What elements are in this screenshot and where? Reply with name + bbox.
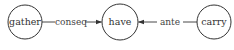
node-gather[interactable]: gather bbox=[8, 5, 42, 39]
diagram-canvas: gather have carry conseq ante bbox=[0, 0, 234, 50]
node-label: gather bbox=[9, 16, 41, 27]
node-have[interactable]: have bbox=[102, 4, 138, 40]
edge-carry-have: ante bbox=[139, 17, 198, 27]
node-label: have bbox=[109, 16, 132, 27]
node-carry[interactable]: carry bbox=[197, 5, 231, 39]
edge-gather-have: conseq bbox=[42, 17, 102, 27]
edge-label: ante bbox=[160, 17, 180, 27]
edge-label: conseq bbox=[55, 17, 87, 27]
node-label: carry bbox=[201, 16, 227, 27]
